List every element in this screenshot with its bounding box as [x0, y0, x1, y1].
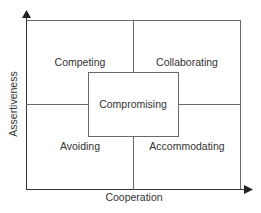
y-axis-label: Assertiveness: [7, 71, 19, 136]
quadrant-accommodating: Accommodating: [149, 140, 224, 152]
right-border: [240, 20, 241, 190]
center-compromising: Compromising: [99, 98, 167, 110]
y-axis-arrow-icon: [22, 10, 31, 19]
quadrant-collaborating: Collaborating: [156, 56, 218, 68]
x-axis-label: Cooperation: [105, 191, 162, 203]
x-axis: [26, 189, 246, 190]
quadrant-avoiding: Avoiding: [60, 140, 100, 152]
quadrant-competing: Competing: [55, 56, 106, 68]
x-axis-arrow-icon: [244, 185, 253, 194]
y-axis: [26, 16, 27, 190]
